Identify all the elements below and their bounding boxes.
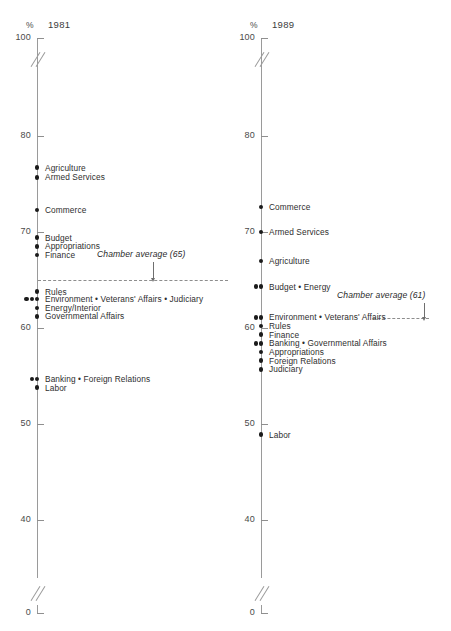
tick-label-80: 80	[7, 130, 31, 140]
panel-1989: %198910080706050400Chamber average (61)C…	[225, 0, 451, 631]
tick-100	[37, 38, 44, 39]
tick-label-40: 40	[7, 514, 31, 524]
data-point	[35, 244, 40, 249]
tick-label-60: 60	[7, 322, 31, 332]
chamber-average-line	[38, 280, 228, 281]
axis-break-top	[30, 51, 46, 67]
data-point	[259, 367, 264, 372]
tick-label-50: 50	[231, 418, 255, 428]
year-label: 1981	[48, 19, 70, 30]
data-point	[259, 350, 264, 355]
tick-40	[37, 520, 44, 521]
axis-break-top	[254, 51, 270, 67]
axis-line-upper	[261, 38, 262, 578]
point-label: Judiciary	[269, 364, 303, 374]
point-label: Labor	[269, 430, 291, 440]
data-point	[35, 385, 40, 390]
data-point	[35, 253, 40, 258]
tick-50	[261, 424, 268, 425]
percent-symbol: %	[26, 20, 34, 30]
tick-label-100: 100	[231, 32, 255, 42]
tick-label-60: 60	[231, 322, 255, 332]
data-point	[35, 377, 40, 382]
axis-line-lower	[261, 605, 262, 613]
data-point	[35, 314, 40, 319]
data-point	[35, 208, 40, 213]
tick-100	[261, 38, 268, 39]
data-point	[35, 175, 40, 180]
data-point	[259, 432, 264, 437]
tick-label-100: 100	[7, 32, 31, 42]
data-point	[24, 297, 29, 302]
percent-symbol: %	[250, 20, 258, 30]
tick-70	[37, 232, 44, 233]
point-label: Armed Services	[45, 172, 105, 182]
tick-label-50: 50	[7, 418, 31, 428]
chamber-average-note: Chamber average (61)	[337, 290, 425, 300]
chamber-average-arrow	[153, 262, 154, 278]
tick-80	[37, 136, 44, 137]
data-point	[35, 165, 40, 170]
point-label: Labor	[45, 383, 67, 393]
data-point	[259, 315, 264, 320]
point-label: Commerce	[269, 202, 310, 212]
data-point	[254, 341, 259, 346]
chamber-average-arrow	[424, 303, 425, 317]
point-label: Budget • Energy	[269, 282, 331, 292]
data-point	[254, 284, 259, 289]
tick-0	[37, 613, 44, 614]
data-point	[259, 259, 264, 264]
tick-label-40: 40	[231, 514, 255, 524]
tick-label-70: 70	[7, 226, 31, 236]
data-point	[35, 297, 40, 302]
data-point	[259, 358, 264, 363]
axis-break-bottom	[30, 585, 46, 601]
data-point	[259, 205, 264, 210]
data-point	[259, 230, 264, 235]
data-point	[35, 235, 40, 240]
chamber-average-note: Chamber average (65)	[97, 249, 185, 259]
tick-60	[261, 328, 268, 329]
tick-label-70: 70	[231, 226, 255, 236]
data-point	[35, 289, 40, 294]
panel-1981: %198110080706050400Chamber average (65)A…	[0, 0, 225, 631]
tick-40	[261, 520, 268, 521]
point-label: Armed Services	[269, 227, 329, 237]
data-point	[259, 284, 264, 289]
tick-60	[37, 328, 44, 329]
tick-50	[37, 424, 44, 425]
point-label: Commerce	[45, 205, 86, 215]
axis-line-lower	[37, 605, 38, 613]
point-label: Finance	[45, 250, 75, 260]
data-point	[30, 377, 35, 382]
axis-break-bottom	[254, 585, 270, 601]
data-point	[259, 332, 264, 337]
tick-0	[261, 613, 268, 614]
data-point	[254, 315, 259, 320]
tick-label-80: 80	[231, 130, 255, 140]
point-label: Agriculture	[45, 163, 86, 173]
tick-label-0: 0	[7, 607, 31, 617]
tick-label-0: 0	[231, 607, 255, 617]
data-point	[35, 306, 40, 311]
data-point	[30, 297, 35, 302]
point-label: Governmental Affairs	[45, 311, 124, 321]
data-point	[259, 341, 264, 346]
point-label: Agriculture	[269, 256, 310, 266]
tick-80	[261, 136, 268, 137]
year-label: 1989	[272, 19, 294, 30]
